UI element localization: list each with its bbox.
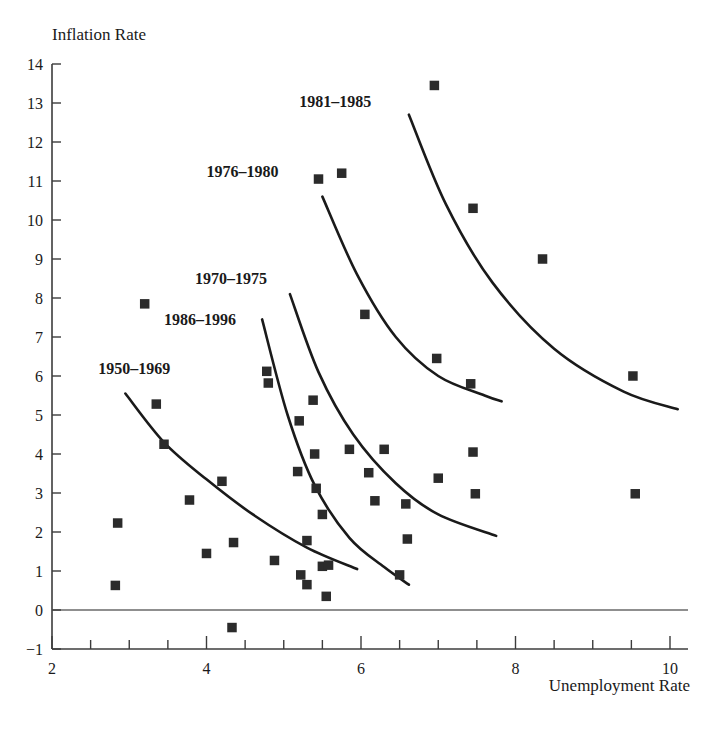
data-point [311, 484, 321, 494]
data-point [370, 496, 380, 506]
data-point [314, 174, 324, 184]
data-points-group [111, 81, 640, 633]
data-point [202, 549, 212, 559]
data-point [628, 371, 638, 381]
data-point [302, 580, 312, 590]
x-tick-label: 2 [48, 660, 56, 677]
data-point [379, 445, 389, 455]
data-point [152, 399, 162, 409]
x-axis-title: Unemployment Rate [549, 676, 690, 695]
data-point [395, 570, 405, 580]
phillips-curve-chart: −101234567891011121314 246810 1950–19691… [0, 0, 701, 731]
data-point [434, 473, 444, 483]
data-point [321, 592, 331, 602]
data-point [466, 379, 476, 389]
curve-label-1981-1985: 1981–1985 [299, 93, 371, 110]
y-tick-label: 14 [27, 56, 43, 73]
data-point [430, 81, 440, 91]
data-point [432, 354, 442, 364]
data-point [159, 440, 169, 450]
y-tick-label: 1 [35, 563, 43, 580]
y-tick-label: 3 [35, 485, 43, 502]
data-point [140, 299, 150, 309]
y-tick-label: 5 [35, 407, 43, 424]
data-point [111, 581, 121, 591]
curve-labels-group: 1950–19691986–19961970–19751976–19801981… [98, 93, 371, 377]
curve-label-1970-1975: 1970–1975 [195, 270, 267, 287]
data-point [538, 254, 548, 264]
data-point [270, 556, 280, 566]
y-tick-label: 4 [35, 446, 43, 463]
x-tick-label: 8 [512, 660, 520, 677]
phillips-curve-1970-1975 [290, 294, 496, 536]
data-point [229, 538, 239, 548]
data-point [310, 449, 320, 459]
axes-group [52, 64, 688, 649]
plot-area: −101234567891011121314 246810 1950–19691… [0, 0, 701, 731]
y-tick-label: 10 [27, 212, 43, 229]
y-tick-label: 8 [35, 290, 43, 307]
curve-label-1976-1980: 1976–1980 [207, 163, 279, 180]
phillips-curves-group [125, 115, 677, 585]
data-point [468, 447, 478, 457]
y-tick-labels-group: −101234567891011121314 [26, 56, 43, 658]
data-point [293, 467, 303, 477]
data-point [468, 204, 478, 214]
data-point [113, 518, 123, 528]
data-point [324, 560, 334, 570]
data-point [401, 499, 411, 509]
data-point [403, 534, 413, 544]
data-point [318, 510, 328, 520]
y-tick-label: −1 [26, 641, 43, 658]
data-point [630, 489, 640, 499]
data-point [337, 168, 347, 178]
data-point [264, 378, 274, 388]
y-tick-label: 12 [27, 134, 43, 151]
data-point [296, 570, 306, 580]
data-point [302, 536, 312, 546]
y-tick-label: 13 [27, 95, 43, 112]
y-tick-label: 9 [35, 251, 43, 268]
curve-label-1986-1996: 1986–1996 [164, 311, 236, 328]
x-tick-label: 10 [662, 660, 678, 677]
tick-marks-group [52, 64, 670, 649]
x-tick-labels-group: 246810 [48, 660, 678, 677]
phillips-curve-1950-1969 [125, 394, 357, 570]
y-tick-label: 7 [35, 329, 43, 346]
data-point [227, 623, 237, 633]
y-tick-label: 2 [35, 524, 43, 541]
phillips-curve-1976-1980 [322, 197, 501, 402]
y-tick-label: 0 [35, 602, 43, 619]
x-tick-label: 4 [203, 660, 211, 677]
data-point [364, 468, 374, 478]
y-axis-title: Inflation Rate [52, 25, 146, 44]
data-point [471, 489, 481, 499]
curve-label-1950-1969: 1950–1969 [98, 360, 170, 377]
data-point [262, 367, 272, 377]
data-point [345, 445, 355, 455]
y-tick-label: 6 [35, 368, 43, 385]
data-point [294, 416, 304, 426]
data-point [360, 310, 370, 320]
data-point [217, 477, 227, 487]
data-point [308, 395, 318, 405]
data-point [185, 495, 195, 505]
y-tick-label: 11 [28, 173, 43, 190]
x-tick-label: 6 [357, 660, 365, 677]
